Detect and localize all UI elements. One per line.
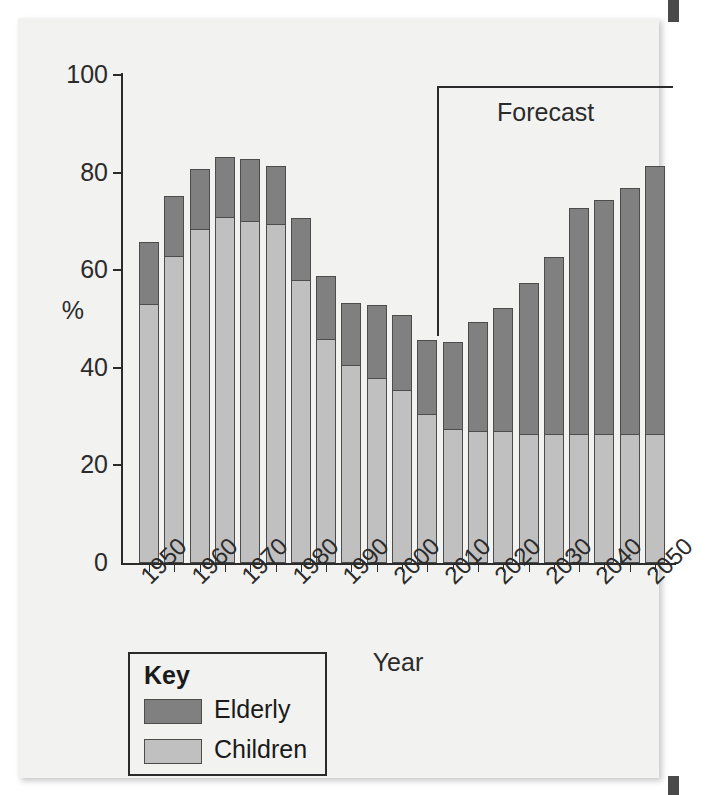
legend-swatch-elderly [144, 699, 202, 724]
scan-binding-artifact-bottom [668, 776, 679, 795]
bar-segment-elderly-2005 [417, 340, 437, 416]
bar-segment-children-2020 [493, 431, 513, 563]
bar-2020 [493, 307, 513, 563]
bar-segment-elderly-2000 [392, 315, 412, 391]
bar-segment-elderly-2015 [468, 322, 488, 432]
bar-segment-elderly-1995 [367, 305, 387, 378]
bar-segment-children-1990 [341, 365, 361, 563]
y-tick-mark-100 [113, 74, 122, 76]
bar-segment-children-2050 [645, 434, 665, 563]
bar-2005 [417, 339, 437, 563]
bar-1995 [367, 304, 387, 563]
bar-2010 [443, 341, 463, 563]
bar-segment-elderly-2030 [544, 257, 564, 435]
y-tick-mark-80 [113, 172, 122, 174]
bar-1975 [266, 165, 286, 563]
bar-segment-children-2000 [392, 390, 412, 563]
bar-segment-children-1960 [190, 229, 210, 563]
bar-segment-elderly-1990 [341, 303, 361, 366]
bar-segment-children-2010 [443, 429, 463, 563]
forecast-label: Forecast [497, 98, 594, 127]
legend-label-children: Children [214, 735, 307, 764]
bar-segment-children-1970 [240, 221, 260, 563]
bar-segment-elderly-1955 [164, 196, 184, 257]
chart-plot-area: % 020406080100 Forecast Year Key Elderly… [18, 18, 659, 778]
bar-1985 [316, 275, 336, 563]
bar-segment-elderly-1980 [291, 218, 311, 281]
bar-segment-children-1975 [266, 224, 286, 563]
forecast-bracket-horizontal [437, 86, 673, 88]
bar-2030 [544, 256, 564, 563]
y-tick-mark-20 [113, 464, 122, 466]
bar-segment-elderly-2050 [645, 166, 665, 434]
y-tick-mark-60 [113, 269, 122, 271]
scanned-page-background: % 020406080100 Forecast Year Key Elderly… [0, 0, 714, 795]
bar-1965 [215, 156, 235, 563]
bar-segment-elderly-2010 [443, 342, 463, 430]
bar-segment-elderly-1950 [139, 242, 159, 305]
bar-2000 [392, 314, 412, 563]
bar-segment-children-1955 [164, 256, 184, 563]
bar-segment-elderly-1975 [266, 166, 286, 225]
y-tick-label-20: 20 [50, 452, 108, 477]
forecast-bracket-vertical [437, 86, 439, 336]
bar-1960 [190, 168, 210, 563]
bar-1950 [139, 241, 159, 563]
bar-segment-elderly-2035 [569, 208, 589, 435]
bar-segment-elderly-2045 [620, 188, 640, 434]
bar-segment-elderly-2040 [594, 200, 614, 434]
bar-1980 [291, 217, 311, 563]
y-tick-label-60: 60 [50, 257, 108, 282]
bar-segment-children-1985 [316, 339, 336, 563]
bar-segment-elderly-1970 [240, 159, 260, 222]
bar-1970 [240, 158, 260, 563]
y-tick-label-40: 40 [50, 355, 108, 380]
bar-2015 [468, 321, 488, 563]
bar-segment-children-1950 [139, 304, 159, 563]
bar-2050 [645, 165, 665, 563]
legend-key-box: Key Elderly Children [128, 652, 327, 776]
bar-segment-children-2030 [544, 434, 564, 563]
chart-page: % 020406080100 Forecast Year Key Elderly… [18, 18, 659, 778]
y-tick-mark-40 [113, 367, 122, 369]
bar-2045 [620, 187, 640, 563]
bar-segment-elderly-2025 [519, 283, 539, 434]
bar-segment-elderly-2020 [493, 308, 513, 432]
bar-2040 [594, 199, 614, 563]
bar-1990 [341, 302, 361, 563]
bar-1955 [164, 195, 184, 563]
y-tick-label-100: 100 [50, 62, 108, 87]
bar-segment-children-1965 [215, 217, 235, 563]
y-axis-tick-labels: 020406080100 [44, 18, 108, 778]
bar-segment-elderly-1960 [190, 169, 210, 230]
legend-title: Key [144, 661, 190, 690]
y-tick-label-0: 0 [50, 550, 108, 575]
bar-2025 [519, 282, 539, 563]
y-tick-label-80: 80 [50, 160, 108, 185]
bar-segment-elderly-1985 [316, 276, 336, 339]
bar-2035 [569, 207, 589, 563]
bar-segment-children-1980 [291, 280, 311, 563]
bar-segment-elderly-1965 [215, 157, 235, 218]
bar-segment-children-2040 [594, 434, 614, 563]
legend-label-elderly: Elderly [214, 695, 290, 724]
legend-swatch-children [144, 739, 202, 764]
